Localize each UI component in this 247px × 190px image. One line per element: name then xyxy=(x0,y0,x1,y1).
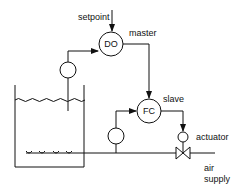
water-surface xyxy=(15,99,85,102)
fc-controller-label: FC xyxy=(143,106,155,116)
cascade-control-diagram: setpoint DO master FC slave actuator air… xyxy=(0,0,247,190)
aeration-tank xyxy=(15,85,84,167)
do-sensor-icon xyxy=(60,62,76,78)
slave-output-line xyxy=(161,111,183,131)
setpoint-label: setpoint xyxy=(78,12,110,22)
slave-label: slave xyxy=(163,94,184,104)
master-output-line xyxy=(123,44,149,98)
air-supply-label-line1: air xyxy=(204,163,214,173)
flow-measurement-line xyxy=(116,111,136,128)
actuator-icon xyxy=(178,132,188,142)
actuator-label: actuator xyxy=(196,132,229,142)
air-supply-label-line2: supply xyxy=(204,174,231,184)
do-controller: DO xyxy=(99,32,123,56)
flow-sensor-icon xyxy=(108,128,124,144)
master-label: master xyxy=(129,28,157,38)
do-measurement-line xyxy=(68,51,98,62)
do-controller-label: DO xyxy=(104,39,118,49)
fc-controller: FC xyxy=(137,99,161,123)
